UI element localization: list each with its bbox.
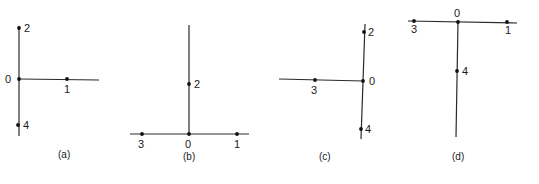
node-point: [362, 30, 366, 34]
node-point: [456, 20, 460, 24]
node-label: 4: [462, 65, 468, 77]
axis-line: [456, 22, 458, 137]
node-point: [359, 127, 363, 131]
node-label: 3: [411, 23, 417, 35]
node-label: 1: [64, 83, 70, 95]
node-point: [16, 123, 20, 127]
panel-d: 3014(d): [408, 7, 517, 162]
panel-a: 2014(a): [5, 22, 99, 160]
panel-caption: (b): [183, 151, 195, 162]
node-label: 3: [138, 138, 144, 150]
node-point: [17, 26, 21, 30]
node-point: [235, 132, 239, 136]
diagram-figure: 2014(a) 2301(b) 2304(c) 3014(d): [0, 0, 539, 184]
node-label: 2: [368, 26, 374, 38]
node-point: [455, 69, 459, 73]
node-label: 4: [23, 119, 29, 131]
panel-caption: (d): [452, 151, 464, 162]
panel-caption: (c): [319, 151, 331, 162]
axis-line: [19, 79, 99, 80]
node-label: 1: [505, 24, 511, 36]
diagram-svg: 2014(a) 2301(b) 2304(c) 3014(d): [0, 0, 539, 184]
node-point: [361, 79, 365, 83]
node-point: [17, 77, 21, 81]
node-label: 2: [194, 78, 200, 90]
node-label: 0: [185, 138, 191, 150]
node-label: 4: [365, 123, 371, 135]
panel-c: 2304(c): [279, 24, 375, 162]
node-point: [65, 77, 69, 81]
node-point: [313, 78, 317, 82]
node-label: 0: [454, 7, 460, 19]
node-label: 0: [5, 73, 11, 85]
node-label: 3: [311, 84, 317, 96]
axis-line: [408, 21, 517, 23]
panel-b: 2301(b): [130, 25, 249, 162]
axis-line: [279, 79, 363, 81]
node-label: 2: [24, 22, 30, 34]
node-label: 1: [234, 138, 240, 150]
node-label: 0: [369, 75, 375, 87]
node-point: [140, 132, 144, 136]
node-point: [187, 82, 191, 86]
node-point: [187, 132, 191, 136]
panel-caption: (a): [58, 149, 70, 160]
